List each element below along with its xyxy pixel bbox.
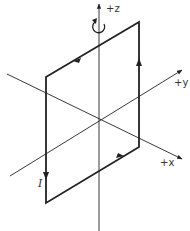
current-label: I — [37, 177, 43, 190]
diagram-canvas: +z +y +x I — [0, 0, 190, 231]
x-axis — [7, 74, 182, 159]
current-loop — [43, 22, 142, 203]
y-axis — [10, 70, 182, 176]
loop-arrow-right-up-icon — [136, 58, 142, 66]
loop-arrow-left-down-icon — [43, 172, 49, 180]
rotation-arrow-icon — [92, 18, 105, 33]
y-axis-label: +y — [174, 77, 188, 88]
z-axis-label: +z — [106, 3, 120, 14]
x-axis-label: +x — [160, 157, 174, 168]
